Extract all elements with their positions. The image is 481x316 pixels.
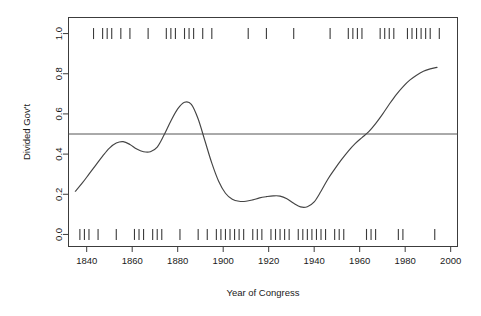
x-axis-tick-label: 1880 — [167, 255, 188, 266]
x-axis-tick-label: 1960 — [349, 255, 370, 266]
x-axis-tick-label: 1900 — [213, 255, 234, 266]
y-axis-tick-label: 0.6 — [53, 107, 64, 120]
y-axis-tick-label: 0.2 — [53, 188, 64, 201]
y-axis-tick-label: 1.0 — [53, 27, 64, 40]
x-axis-title: Year of Congress — [226, 287, 299, 298]
x-axis-tick-label: 1920 — [258, 255, 279, 266]
x-axis-tick-label: 1840 — [76, 255, 97, 266]
y-axis-tick-label: 0.0 — [53, 228, 64, 241]
y-axis-title: Divided Gov't — [21, 104, 32, 161]
y-axis-tick-label: 0.4 — [53, 147, 64, 160]
x-axis-tick-label: 1980 — [395, 255, 416, 266]
plot-figure: 1840186018801900192019401960198020000.00… — [0, 0, 481, 316]
chart-background — [0, 0, 481, 316]
y-axis-tick-label: 0.8 — [53, 67, 64, 80]
divided-government-chart: 1840186018801900192019401960198020000.00… — [0, 0, 481, 316]
x-axis-tick-label: 2000 — [440, 255, 461, 266]
x-axis-tick-label: 1860 — [122, 255, 143, 266]
x-axis-tick-label: 1940 — [304, 255, 325, 266]
